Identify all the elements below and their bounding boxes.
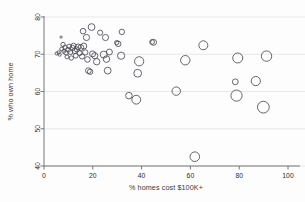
bubble-marker (98, 30, 103, 35)
x-tick-group: 020406080100 (42, 166, 294, 179)
y-tick-label: 70 (34, 50, 41, 58)
bubble-marker (86, 68, 92, 74)
x-tick-label: 0 (42, 172, 46, 179)
x-axis-title: % homes cost $100K+ (129, 183, 203, 192)
bubble-marker (257, 101, 269, 113)
x-tick-label: 80 (235, 172, 243, 179)
bubble-marker (87, 69, 92, 74)
bubble-marker (135, 57, 144, 66)
bubble-marker (126, 92, 133, 99)
bubble-marker (94, 59, 100, 65)
bubble-markers-group (55, 24, 272, 162)
x-tick-label: 60 (187, 172, 195, 179)
x-tick-label: 100 (282, 172, 294, 179)
bubble-marker (65, 55, 69, 59)
y-axis-title: % who own home (6, 62, 15, 120)
y-tick-label: 80 (34, 13, 41, 21)
bubble-marker (261, 51, 271, 61)
bubble-marker (102, 34, 108, 40)
y-tick-label: 40 (34, 162, 41, 170)
bubble-marker (132, 95, 141, 104)
scatter-plot-canvas: 020406080100 4050607080 % homes cost $10… (0, 0, 305, 202)
bubble-marker (181, 56, 190, 65)
bubble-marker (60, 36, 62, 38)
bubble-marker (69, 56, 73, 60)
x-tick-label: 20 (89, 172, 97, 179)
y-tick-group: 4050607080 (34, 13, 44, 170)
bubble-marker (104, 67, 111, 74)
y-tick-label: 50 (34, 125, 41, 133)
bubble-marker (119, 29, 124, 34)
y-tick-label: 60 (34, 88, 41, 96)
bubble-marker (199, 41, 208, 50)
bubble-marker (190, 152, 200, 162)
bubble-marker (118, 52, 125, 59)
bubble-marker (80, 28, 86, 34)
bubble-marker (232, 79, 238, 85)
bubble-marker (251, 76, 260, 85)
bubble-marker (134, 69, 142, 77)
x-tick-label: 40 (138, 172, 146, 179)
bubble-marker (83, 34, 89, 40)
bubble-marker (88, 24, 95, 31)
gridlines-group (44, 17, 305, 166)
bubble-marker (85, 57, 91, 63)
bubble-chart-figure: 020406080100 4050607080 % homes cost $10… (0, 0, 305, 202)
